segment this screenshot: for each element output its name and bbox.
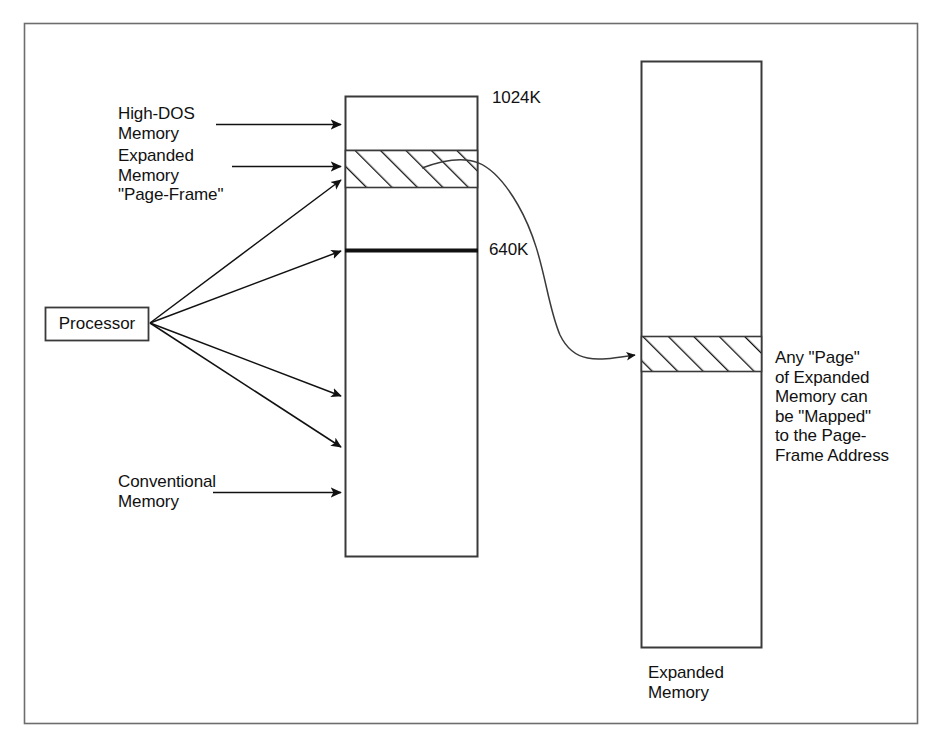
expanded-memory-column bbox=[642, 62, 762, 648]
processor-arrow-to-640k bbox=[150, 251, 341, 323]
system-memory-column bbox=[345, 97, 478, 557]
label-address-640k: 640K bbox=[489, 240, 528, 260]
label-mapping-note: Any "Page" of Expanded Memory can be "Ma… bbox=[775, 348, 930, 465]
diagram-page: High-DOS Memory Expanded Memory "Page-Fr… bbox=[0, 0, 940, 741]
page-frame-band bbox=[346, 151, 477, 188]
label-high-dos-memory: High-DOS Memory bbox=[118, 104, 195, 144]
processor-access-arrows bbox=[150, 180, 341, 447]
label-expanded-memory-page-frame: Expanded Memory "Page-Frame" bbox=[118, 146, 223, 205]
label-processor: Processor bbox=[45, 307, 149, 340]
label-address-1024k: 1024K bbox=[492, 88, 541, 108]
label-expanded-memory-caption: Expanded Memory bbox=[648, 663, 724, 703]
label-conventional-memory: Conventional Memory bbox=[118, 472, 216, 512]
expanded-memory-page-band bbox=[642, 337, 761, 372]
